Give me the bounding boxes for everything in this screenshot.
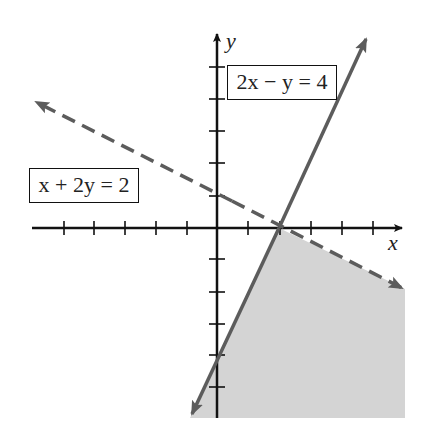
equation-label-dashed: x + 2y = 2: [29, 168, 139, 203]
y-axis-label: y: [226, 28, 236, 54]
inequality-graph: [0, 0, 424, 445]
equation-label-solid: 2x − y = 4: [227, 65, 337, 100]
equation-text-solid: 2x − y = 4: [237, 69, 328, 94]
x-axis-label: x: [388, 230, 398, 256]
shaded-region: [190, 228, 405, 418]
equation-text-dashed: x + 2y = 2: [39, 172, 130, 197]
